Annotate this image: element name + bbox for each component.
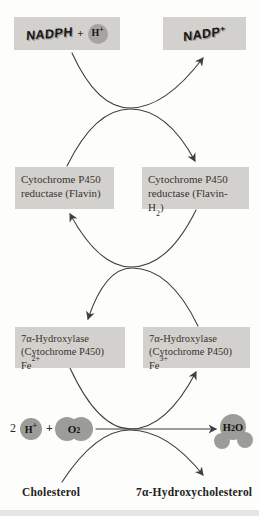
- hydroxycholesterol-label: 7α-Hydroxycholesterol: [136, 486, 252, 498]
- nadph-box: NADPH + H+: [14, 17, 120, 50]
- h2o-molecule: H2O: [212, 412, 256, 450]
- reductase-flavin-line2: reductase (Flavin): [21, 187, 101, 199]
- nadp-box: NADP+: [163, 17, 246, 50]
- cholesterol-label: Cholesterol: [22, 486, 80, 498]
- hydroxylase-fe3-line1: 7α-Hydroxylase: [149, 333, 217, 344]
- arrow-flavin-to-flavinh2: [67, 109, 195, 166]
- h-plus-molecule: H+: [20, 418, 42, 440]
- plus-sign-reaction: +: [46, 421, 53, 436]
- nadp-label: NADP+: [183, 22, 225, 44]
- h2o-label: H2O: [220, 414, 246, 440]
- reductase-flavin-box: Cytochrome P450 reductase (Flavin): [15, 167, 114, 209]
- p450-cycle-diagram: NADPH + H+ NADP+ Cytochrome P450 reducta…: [0, 0, 259, 516]
- reductase-flavin-h2-line1: Cytochrome P450: [148, 173, 228, 185]
- o2-molecule: O2: [55, 417, 93, 441]
- hydroxylase-fe2-box: 7α-Hydroxylase (Cytochrome P450) Fe2+: [15, 327, 125, 368]
- arrow-fe3-to-fe2: [88, 268, 198, 326]
- h-plus-molecule-top: H+: [88, 24, 108, 44]
- plus-sign: +: [77, 26, 83, 40]
- hydroxylase-fe2-line1: 7α-Hydroxylase: [21, 333, 89, 344]
- o2-label: O2: [55, 417, 93, 441]
- arrow-nadph-to-nadp: [72, 53, 203, 108]
- hydroxylase-fe3-box: 7α-Hydroxylase (Cytochrome P450) Fe3+: [143, 327, 250, 368]
- page-edge-band: [0, 510, 259, 516]
- coefficient-2: 2: [10, 421, 16, 436]
- reductase-flavin-h2-box: Cytochrome P450 reductase (Flavin-H2): [142, 167, 249, 209]
- nadph-label: NADPH: [26, 23, 74, 43]
- arrow-flavinh2-to-flavin: [70, 210, 196, 267]
- hydroxylase-fe2-line3: Fe: [21, 360, 32, 371]
- hydroxylase-fe3-line3: Fe: [149, 360, 160, 371]
- reductase-flavin-line1: Cytochrome P450: [21, 173, 101, 185]
